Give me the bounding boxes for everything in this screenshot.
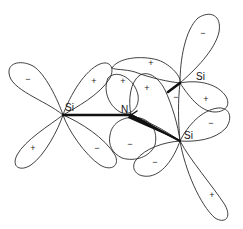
lobe-si-left-upper-left <box>9 63 63 115</box>
sign-center-lower-2: − <box>152 157 157 167</box>
sign-si-left-upper-left: − <box>25 74 30 84</box>
lobe-si-bottom-right-lower <box>180 141 228 220</box>
label-n-center: N <box>121 104 128 115</box>
si-bottom-right-orbitals <box>180 108 230 220</box>
sign-si-top-right-upper: − <box>200 28 205 38</box>
sign-si-left-upper-right: + <box>91 76 96 86</box>
sign-center-lower-1: − <box>127 139 132 149</box>
atom-labels: Si N Si Si <box>65 71 205 141</box>
sign-si-bottom-right-lower: + <box>209 190 214 200</box>
sign-si-bottom-right-upper: − <box>208 118 213 128</box>
label-si-left: Si <box>65 102 74 113</box>
center-upper-orbitals <box>106 58 180 141</box>
lobe-si-left-lower-right <box>63 115 117 168</box>
label-si-top-right: Si <box>196 71 205 82</box>
sign-si-top-right-bond: − <box>173 92 178 102</box>
bond-n-si-top-right <box>168 83 180 92</box>
lobe-si-left-lower-left <box>15 115 63 168</box>
sign-center-upper-2: + <box>148 58 153 68</box>
sign-si-top-right-right: + <box>203 94 208 104</box>
sign-center-upper-1: + <box>120 76 125 86</box>
sign-si-left-lower-left: + <box>30 143 35 153</box>
sign-center-upper-3: + <box>144 83 149 93</box>
center-lower-orbitals <box>110 117 181 176</box>
orbital-diagram: − + + − + + + − − − − + − + Si N Si Si <box>0 0 243 229</box>
sign-si-left-lower-right: − <box>94 143 99 153</box>
label-si-bottom-right: Si <box>184 130 193 141</box>
